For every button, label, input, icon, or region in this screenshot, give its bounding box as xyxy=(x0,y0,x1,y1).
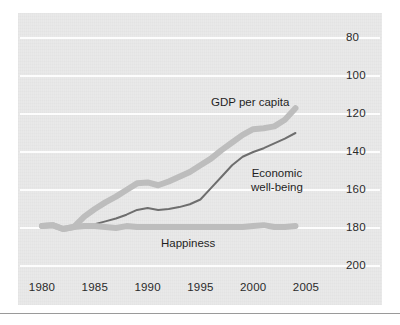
y-tick-label: 180 xyxy=(346,221,366,233)
gdp-per-capita-label-line: GDP per capita xyxy=(211,95,289,109)
chart-figure: 2001801601401201008019801985199019952000… xyxy=(0,0,400,325)
footer-rule xyxy=(0,313,400,314)
y-tick-label: 140 xyxy=(346,145,366,157)
happiness-label: Happiness xyxy=(161,236,215,250)
x-tick-label: 1985 xyxy=(75,281,115,293)
economic-wellbeing-label-line: Economic xyxy=(251,166,303,180)
series-line-3 xyxy=(42,225,295,229)
x-tick-label: 1980 xyxy=(22,281,62,293)
economic-wellbeing-label: Economicwell-being xyxy=(251,166,303,194)
y-tick-label: 80 xyxy=(346,31,359,43)
y-tick-label: 160 xyxy=(346,183,366,195)
x-tick-label: 2005 xyxy=(286,281,326,293)
y-tick-label: 200 xyxy=(346,259,366,271)
economic-wellbeing-label-line: well-being xyxy=(251,180,303,194)
x-tick-label: 1990 xyxy=(128,281,168,293)
y-tick-label: 120 xyxy=(346,107,366,119)
line-chart-plot xyxy=(0,0,400,325)
gdp-per-capita-label: GDP per capita xyxy=(211,95,289,109)
x-tick-label: 1995 xyxy=(180,281,220,293)
x-tick-label: 2000 xyxy=(233,281,273,293)
happiness-label-line: Happiness xyxy=(161,236,215,250)
y-tick-label: 100 xyxy=(346,69,366,81)
